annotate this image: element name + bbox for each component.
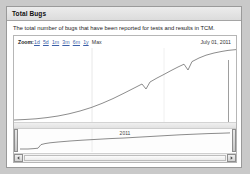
- chevron-left-icon: [15, 155, 22, 161]
- range-button-1d[interactable]: 1d: [34, 39, 40, 45]
- range-button-5d[interactable]: 5d: [43, 39, 49, 45]
- range-buttons[interactable]: 1d5d1m3m6m1yMax: [34, 39, 105, 45]
- main-plot-xaxis: [14, 122, 236, 129]
- page-title: Total Bugs: [12, 10, 46, 17]
- range-button-max[interactable]: Max: [92, 39, 102, 45]
- chart-scrollbar[interactable]: [14, 153, 236, 162]
- range-button-1y[interactable]: 1y: [83, 39, 88, 45]
- scrollbar-track[interactable]: [24, 155, 226, 161]
- stock-chart: Zoom: 1d5d1m3m6m1yMax July 01, 2011: [13, 35, 237, 163]
- range-end-date: July 01, 2011: [201, 39, 231, 45]
- scroll-right-arrow-icon[interactable]: [227, 154, 236, 162]
- range-button-1m[interactable]: 1m: [52, 39, 59, 45]
- range-selector: Zoom: 1d5d1m3m6m1yMax July 01, 2011: [14, 36, 236, 48]
- scroll-left-arrow-icon[interactable]: [14, 154, 23, 162]
- navigator[interactable]: 2011: [14, 129, 236, 152]
- panel-description: The total number of bugs that have been …: [13, 25, 215, 31]
- range-button-3m[interactable]: 3m: [62, 39, 69, 45]
- total-bugs-panel: Total Bugs The total number of bugs that…: [6, 6, 242, 168]
- series-line-total-bugs: [14, 50, 236, 120]
- navigator-right-handle[interactable]: [232, 129, 236, 152]
- scrollbar-thumb[interactable]: [25, 156, 225, 160]
- panel-header: Total Bugs: [7, 7, 241, 21]
- main-plot-area[interactable]: [14, 48, 236, 122]
- screenshot-root: Total Bugs The total number of bugs that…: [0, 0, 250, 174]
- main-series-svg: [14, 48, 236, 122]
- range-button-6m[interactable]: 6m: [73, 39, 80, 45]
- chevron-right-icon: [228, 155, 235, 161]
- navigator-year-label: 2011: [120, 130, 131, 136]
- zoom-label: Zoom:: [18, 39, 34, 45]
- navigator-left-handle[interactable]: [14, 129, 18, 152]
